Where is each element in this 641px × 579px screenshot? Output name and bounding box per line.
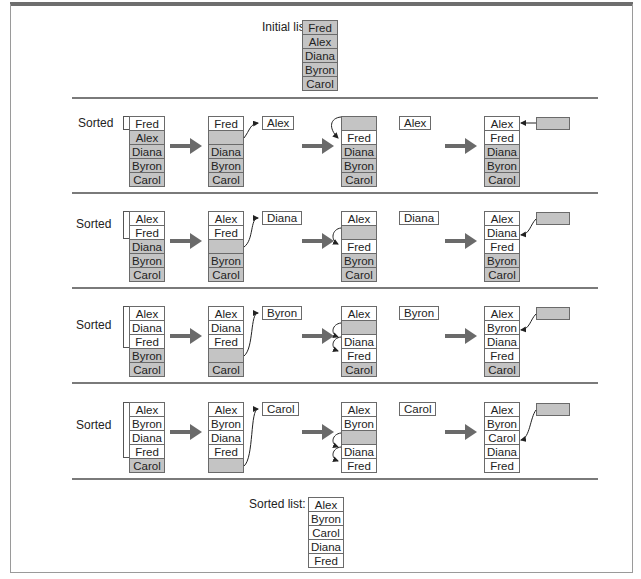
right-arrow-icon — [445, 233, 477, 249]
stage-arrow-icons — [170, 138, 477, 440]
right-arrow-icon — [445, 424, 477, 440]
arrows-layer — [0, 0, 641, 579]
right-arrow-icon — [170, 233, 202, 249]
right-arrow-icon — [170, 328, 202, 344]
right-arrow-icon — [445, 138, 477, 154]
right-arrow-icon — [302, 328, 334, 344]
right-arrow-icon — [445, 328, 477, 344]
curved-arrow-icon — [521, 410, 536, 440]
curved-arrow-icon — [244, 409, 258, 466]
right-arrow-icon — [302, 233, 334, 249]
curved-arrow-icon — [521, 314, 536, 330]
right-arrow-icon — [302, 138, 334, 154]
curved-arrow-icon — [333, 337, 341, 351]
move-arrow-icons — [244, 117, 536, 466]
curved-arrow-icon — [244, 123, 258, 138]
curved-arrow-icon — [333, 323, 341, 337]
curved-arrow-icon — [333, 447, 341, 461]
curved-arrow-icon — [333, 433, 341, 447]
right-arrow-icon — [170, 138, 202, 154]
curved-arrow-icon — [333, 228, 341, 244]
curved-arrow-icon — [244, 218, 258, 247]
right-arrow-icon — [302, 424, 334, 440]
curved-arrow-icon — [521, 219, 536, 235]
curved-arrow-icon — [244, 313, 258, 356]
curved-arrow-icon — [332, 117, 341, 138]
right-arrow-icon — [170, 424, 202, 440]
